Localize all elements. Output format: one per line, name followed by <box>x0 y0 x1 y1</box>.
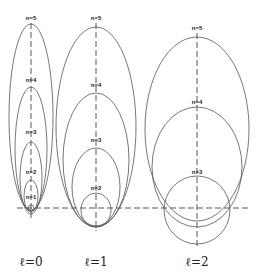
group-caption: ℓ=1 <box>84 255 107 269</box>
orbit-label: n=2 <box>91 185 102 191</box>
orbit-label: n=3 <box>26 129 37 135</box>
orbit-label: n=1 <box>26 194 37 200</box>
group-caption: ℓ=0 <box>19 255 42 269</box>
orbit-diagram: n=5n=4n=3n=2n=1ℓ=0n=5n=4n=3n=2ℓ=1n=5n=4n… <box>0 0 265 277</box>
orbit-group-l0: n=5n=4n=3n=2n=1ℓ=0 <box>9 15 53 269</box>
orbit-label: n=5 <box>91 15 102 21</box>
orbit-label: n=2 <box>26 169 37 175</box>
orbit-group-l2: n=5n=4n=3ℓ=2 <box>145 25 249 269</box>
orbit-label: n=3 <box>192 169 203 175</box>
group-caption: ℓ=2 <box>185 255 208 269</box>
orbit-group-l1: n=5n=4n=3n=2ℓ=1 <box>56 15 136 269</box>
orbit-label: n=4 <box>26 77 37 83</box>
orbit-label: n=5 <box>26 15 37 21</box>
orbit-label: n=3 <box>91 137 102 143</box>
orbit-label: n=5 <box>192 25 203 31</box>
orbit-label: n=4 <box>192 99 203 105</box>
orbit-label: n=4 <box>91 82 102 88</box>
